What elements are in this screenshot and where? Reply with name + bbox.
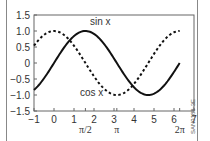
figure-id-label: SAN0188-3E — [190, 99, 196, 134]
y-tick-label: 0.5 — [16, 42, 30, 53]
sin-curve — [34, 31, 180, 95]
chart-figure: 1.51.00.50−0.5−1.0−1.5 −101234567π/2π2π … — [0, 0, 210, 141]
x-tick-label: −1 — [28, 114, 40, 125]
x-tick-label: 2 — [91, 114, 97, 125]
y-tick-label: 1.0 — [16, 26, 30, 37]
y-tick-label: −1.0 — [10, 90, 30, 101]
x-tick-label: 4 — [131, 114, 137, 125]
sin-label: sin x — [90, 16, 111, 27]
x-special-tick-label: π/2 — [79, 124, 92, 135]
y-tick-label: −0.5 — [10, 74, 30, 85]
y-tick-label: 0 — [24, 58, 30, 69]
cos-label: cos x — [80, 87, 103, 98]
cos-curve — [34, 31, 180, 95]
plot-area-frame — [34, 15, 194, 111]
y-tick-label: 1.5 — [16, 10, 30, 21]
y-axis: 1.51.00.50−0.5−1.0−1.5 — [10, 10, 37, 117]
x-tick-label: 5 — [151, 114, 157, 125]
x-special-tick-label: π — [114, 124, 119, 135]
x-special-tick-label: 2π — [175, 124, 185, 135]
x-tick-label: 1 — [71, 114, 77, 125]
x-tick-label: 0 — [51, 114, 57, 125]
x-axis: −101234567π/2π2π — [28, 108, 197, 135]
